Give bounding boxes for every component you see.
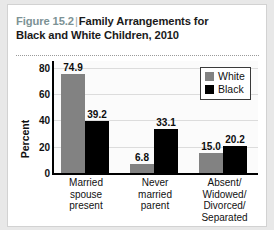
x-label-absent-widowed-divorced-separated-line-3: Divorced/ — [191, 200, 258, 212]
bar-white-never-married-parent[interactable]: 6.8 — [130, 164, 154, 173]
x-label-never-married-parent: Never married parent — [122, 177, 188, 212]
plot-area: 74.9 39.2 6.8 33.1 15.0 20.2 — [53, 61, 258, 173]
figure-card: Figure 15.2|Family Arrangements for Blac… — [7, 4, 267, 227]
bar-group-married-spouse-present: 74.9 39.2 — [61, 61, 109, 173]
legend-swatch-white-icon — [205, 72, 214, 81]
y-axis-ticks: 0 20 40 60 80 — [28, 61, 50, 173]
x-label-absent-widowed-divorced-separated-line-4: Separated — [191, 212, 258, 224]
x-label-absent-widowed-divorced-separated-line-2: Widowed/ — [191, 189, 258, 201]
x-axis-labels: Married spouse present Never married par… — [53, 177, 258, 227]
bar-black-never-married-parent[interactable]: 33.1 — [154, 129, 178, 173]
y-axis-line — [52, 61, 54, 173]
bar-value-white-never-married-parent: 6.8 — [135, 152, 149, 163]
x-label-married-spouse-present-line-3: present — [53, 200, 119, 212]
bar-black-married-spouse-present[interactable]: 39.2 — [85, 121, 109, 173]
title-divider — [16, 55, 260, 56]
bar-value-white-absent-widowed-divorced-separated: 15.0 — [201, 141, 220, 152]
x-label-married-spouse-present-line-1: Married — [53, 177, 119, 189]
bar-black-absent-widowed-divorced-separated[interactable]: 20.2 — [223, 146, 247, 173]
legend-item-black[interactable]: Black — [205, 83, 245, 96]
legend-item-white[interactable]: White — [205, 70, 245, 83]
y-tick-20: 20 — [28, 141, 50, 152]
x-label-absent-widowed-divorced-separated-line-1: Absent/ — [191, 177, 258, 189]
figure-title-line-1: Figure 15.2|Family Arrangements for — [16, 14, 260, 28]
figure-title: Figure 15.2|Family Arrangements for Blac… — [16, 14, 260, 42]
legend-label-white: White — [218, 70, 245, 83]
figure-title-line-2: Black and White Children, 2010 — [16, 28, 260, 42]
figure-number: Figure 15.2 — [16, 15, 74, 27]
bar-white-married-spouse-present[interactable]: 74.9 — [61, 74, 85, 173]
bar-group-never-married-parent: 6.8 33.1 — [130, 61, 178, 173]
figure-title-text-1: Family Arrangements for — [79, 15, 209, 27]
y-tick-0: 0 — [28, 168, 50, 179]
y-tick-60: 60 — [28, 88, 50, 99]
x-label-never-married-parent-line-1: Never — [122, 177, 188, 189]
bar-white-absent-widowed-divorced-separated[interactable]: 15.0 — [199, 153, 223, 173]
x-label-married-spouse-present-line-2: spouse — [53, 189, 119, 201]
y-tick-80: 80 — [28, 62, 50, 73]
bar-value-black-absent-widowed-divorced-separated: 20.2 — [225, 134, 244, 145]
x-label-never-married-parent-line-3: parent — [122, 200, 188, 212]
y-tick-40: 40 — [28, 115, 50, 126]
bar-value-black-never-married-parent: 33.1 — [156, 117, 175, 128]
legend-swatch-black-icon — [205, 85, 214, 94]
bar-value-black-married-spouse-present: 39.2 — [87, 109, 106, 120]
x-label-absent-widowed-divorced-separated: Absent/ Widowed/ Divorced/ Separated — [191, 177, 258, 223]
x-axis-line — [52, 173, 258, 175]
chart-legend: White Black — [200, 67, 251, 100]
x-label-never-married-parent-line-2: married — [122, 189, 188, 201]
x-label-married-spouse-present: Married spouse present — [53, 177, 119, 212]
legend-label-black: Black — [218, 83, 244, 96]
bar-chart: Percent 0 20 40 60 80 74.9 39.2 — [8, 61, 267, 227]
bar-value-white-married-spouse-present: 74.9 — [63, 62, 82, 73]
